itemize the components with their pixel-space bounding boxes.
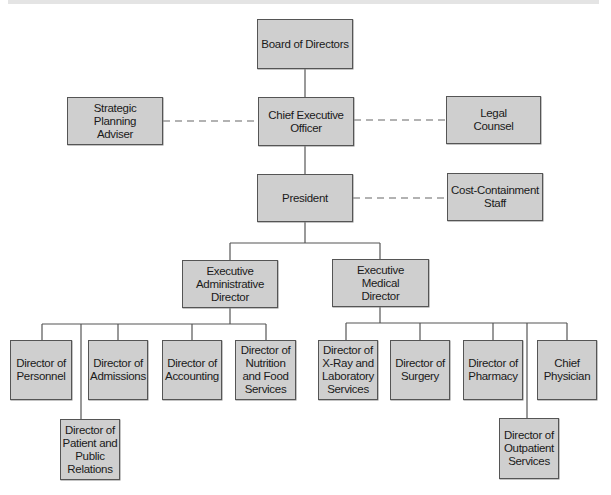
node-board-of-directors: Board of Directors	[257, 19, 353, 69]
node-strategic-planning-adviser: Strategic Planning Adviser	[67, 97, 163, 145]
node-president: President	[257, 174, 353, 222]
node-cost-containment-staff: Cost-Containment Staff	[447, 173, 543, 221]
node-chief-physician: Chief Physician	[537, 340, 597, 400]
node-executive-medical-director: Executive Medical Director	[332, 259, 429, 307]
node-director-of-admissions: Director of Admissions	[88, 340, 148, 400]
node-chief-executive-officer: Chief Executive Officer	[258, 97, 354, 146]
node-director-of-accounting: Director of Accounting	[162, 340, 222, 400]
node-director-of-xray-laboratory: Director of X-Ray and Laboratory Service…	[318, 340, 378, 400]
node-director-of-personnel: Director of Personnel	[10, 340, 72, 400]
node-legal-counsel: Legal Counsel	[446, 96, 541, 144]
node-director-of-outpatient-services: Director of Outpatient Services	[499, 418, 559, 479]
node-director-of-patient-relations: Director of Patient and Public Relations	[60, 419, 120, 480]
node-director-of-surgery: Director of Surgery	[390, 340, 450, 400]
node-director-of-nutrition: Director of Nutrition and Food Services	[235, 340, 296, 400]
node-executive-administrative-director: Executive Administrative Director	[182, 260, 278, 308]
node-director-of-pharmacy: Director of Pharmacy	[463, 340, 523, 400]
